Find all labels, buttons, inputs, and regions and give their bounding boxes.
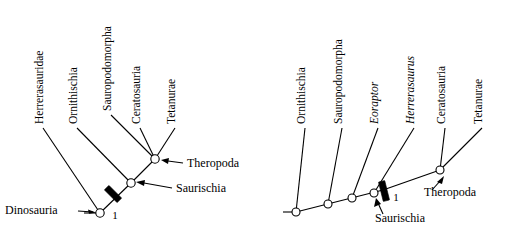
branch-sauropodomorpha-2 bbox=[328, 128, 342, 204]
node-theropoda bbox=[151, 155, 159, 163]
pointer-theropoda bbox=[168, 161, 183, 163]
node-eoraptor-split-2 bbox=[348, 194, 356, 202]
node-theropoda-2 bbox=[436, 166, 444, 174]
taxon-label-herrerasauridae: Herrerasauridae bbox=[33, 51, 45, 124]
node-label-saurischia: Saurischia bbox=[176, 181, 227, 195]
node-label-theropoda: Theropoda bbox=[187, 156, 240, 170]
branch-tetanurae bbox=[155, 128, 175, 159]
branch-ceratosauria-2 bbox=[440, 128, 445, 170]
branch-saurischia-theropoda bbox=[131, 159, 155, 183]
branch-tetanurae-2 bbox=[440, 128, 482, 170]
node-herrerasaurus-split-2 bbox=[370, 189, 378, 197]
node-label-theropoda-2: Theropoda bbox=[424, 185, 477, 199]
taxon-label-ceratosauria-2: Ceratosauria bbox=[435, 66, 447, 124]
branch-herrerasauridae bbox=[43, 128, 100, 213]
pointer-head-saurischia-2 bbox=[374, 198, 381, 207]
node-saurischia bbox=[127, 179, 135, 187]
pointer-head-saurischia bbox=[136, 180, 145, 186]
taxon-label-ornithischia: Ornithischia bbox=[67, 67, 79, 124]
taxon-label-tetanurae-2: Tetanurae bbox=[472, 79, 484, 124]
panel-left-branches bbox=[43, 115, 175, 213]
branch-eoraptor-2 bbox=[352, 128, 378, 198]
branch-ornithischia-2 bbox=[296, 128, 305, 212]
node-label-dinosauria: Dinosauria bbox=[5, 203, 58, 217]
panel-right: Ornithischia Sauropodomorpha Eoraptor He… bbox=[283, 39, 484, 225]
pointer-saurischia bbox=[144, 183, 172, 188]
taxon-label-ornithischia-2: Ornithischia bbox=[295, 67, 307, 124]
pointer-head-theropoda bbox=[161, 158, 169, 164]
node-number-1-2: 1 bbox=[393, 191, 399, 203]
node-dinosauria bbox=[96, 209, 104, 217]
panel-left: Herrerasauridae Ornithischia Sauropodomo… bbox=[5, 26, 240, 221]
node-saurischia-2 bbox=[324, 200, 332, 208]
taxon-label-herrerasaurus: Herrerasaurus bbox=[404, 56, 416, 125]
taxon-label-sauropodomorpha-2: Sauropodomorpha bbox=[332, 39, 345, 124]
taxon-label-tetanurae: Tetanurae bbox=[165, 79, 177, 124]
branch-ceratosauria bbox=[140, 128, 155, 159]
taxon-label-eoraptor: Eoraptor bbox=[368, 81, 381, 125]
figure-container: Herrerasauridae Ornithischia Sauropodomo… bbox=[0, 0, 505, 238]
taxon-label-ceratosauria: Ceratosauria bbox=[130, 66, 142, 124]
branch-ornithischia bbox=[77, 128, 131, 183]
cladogram-svg: Herrerasauridae Ornithischia Sauropodomo… bbox=[0, 0, 505, 238]
node-number-1: 1 bbox=[112, 209, 118, 221]
node-basal-2 bbox=[292, 208, 300, 216]
taxon-label-sauropodomorpha: Sauropodomorpha bbox=[101, 26, 114, 111]
